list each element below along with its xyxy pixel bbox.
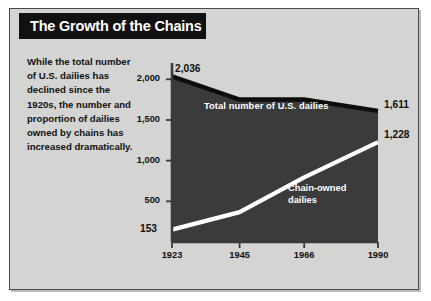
x-axis-tick-label: 1990 bbox=[358, 250, 398, 260]
data-label-start-total: 2,036 bbox=[175, 63, 201, 74]
series-label-chain-line1: Chain-owned bbox=[288, 183, 346, 193]
y-axis-tick-label: 1,500 bbox=[120, 114, 160, 124]
x-axis-tick-label: 1966 bbox=[284, 250, 324, 260]
data-label-end-chain: 1,228 bbox=[384, 129, 410, 140]
chart-figure: The Growth of the Chains While the total… bbox=[0, 0, 431, 301]
y-axis-tick-label: 2,000 bbox=[120, 73, 160, 83]
data-label-start-chain: 153 bbox=[140, 223, 157, 234]
x-axis-tick-label: 1945 bbox=[220, 250, 260, 260]
series-label-total-dailies: Total number of U.S. dailies bbox=[204, 101, 329, 113]
y-axis-tick-label: 500 bbox=[120, 195, 160, 205]
plot-area: 500 1,000 1,500 2,000 1923 1945 1966 199… bbox=[0, 0, 431, 301]
x-axis-tick-label: 1923 bbox=[152, 250, 192, 260]
data-label-end-total: 1,611 bbox=[384, 99, 409, 110]
series-label-chain-line2: dailies bbox=[288, 195, 317, 205]
series-label-chain-owned: Chain-owned dailies bbox=[288, 183, 346, 207]
y-axis-tick-label: 1,000 bbox=[120, 155, 160, 165]
